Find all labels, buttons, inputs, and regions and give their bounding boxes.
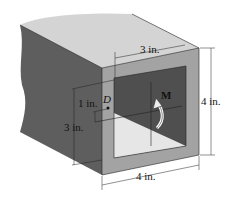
moment-label: M (161, 89, 172, 101)
point-d-label: D (102, 93, 111, 105)
dim-inner-width: 3 in. (140, 43, 160, 55)
dim-inner-height: 3 in. (64, 121, 84, 133)
dim-point-offset: 1 in. (78, 97, 98, 109)
box-beam-diagram: M D 3 in. 4 in. 4 in. 3 in. 1 in. (0, 0, 235, 201)
dim-outer-height: 4 in. (201, 95, 221, 107)
dim-outer-width: 4 in. (136, 170, 156, 182)
